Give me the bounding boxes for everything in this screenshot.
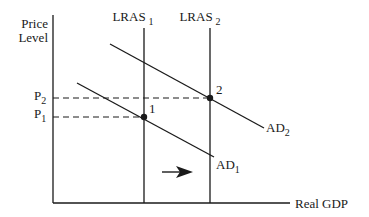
svg-text:P2: P2 xyxy=(34,88,46,106)
svg-text:P1: P1 xyxy=(34,106,46,124)
y-axis-label-line1: Price xyxy=(21,16,48,31)
p2-label: P2 xyxy=(34,88,46,106)
equilibrium-point-1 xyxy=(141,114,147,120)
point-1-label: 1 xyxy=(149,101,156,116)
right-shift-arrow-icon xyxy=(162,166,193,178)
ad2-curve xyxy=(110,44,264,128)
svg-text:AD1: AD1 xyxy=(216,157,240,175)
svg-text:LRAS2: LRAS2 xyxy=(179,9,220,27)
ad2-label: AD2 xyxy=(266,120,290,138)
equilibrium-point-2 xyxy=(207,95,213,101)
lras2-label: LRAS2 xyxy=(179,9,220,27)
ad1-curve xyxy=(77,83,214,157)
ad-lras-diagram: Price Level Real GDP LRAS1 LRAS2 AD2 AD1… xyxy=(0,0,369,217)
y-axis-label-line2: Level xyxy=(18,30,48,45)
ad1-label: AD1 xyxy=(216,157,240,175)
p1-label: P1 xyxy=(34,106,46,124)
svg-text:LRAS1: LRAS1 xyxy=(112,9,153,27)
svg-text:AD2: AD2 xyxy=(266,120,290,138)
lras1-label: LRAS1 xyxy=(112,9,153,27)
x-axis-label: Real GDP xyxy=(295,196,348,211)
point-2-label: 2 xyxy=(216,82,223,97)
